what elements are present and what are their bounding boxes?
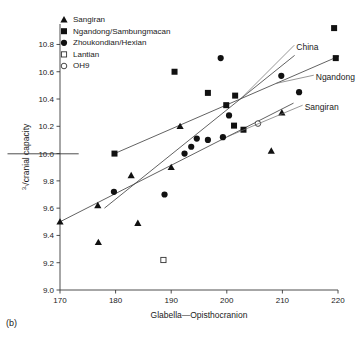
y-tick-label: 10.4 [38,95,54,104]
x-tick-label: 210 [276,296,290,305]
data-point-filled-circle [226,112,232,118]
data-point-filled-circle [181,150,187,156]
data-point-filled-triangle [128,172,135,178]
data-point-filled-circle [188,144,194,150]
legend: SangiranNgandong/SambungmacanZhoukondian… [60,15,170,70]
x-axis-title: Glabella—Opisthocranion [151,310,248,320]
legend-label-3: Lantian [73,50,99,59]
y-tick-label: 9.6 [43,204,55,213]
axis-ticks [57,44,339,293]
y-axis-title-text: 3√cranial capacity [21,123,31,190]
data-point-filled-triangle [134,220,141,226]
legend-marker-open-square [61,52,66,57]
data-point-filled-square [172,69,178,75]
data-point-filled-circle [111,189,117,195]
legend-label-0: Sangiran [73,15,105,24]
x-tick-label: 170 [53,296,67,305]
y-tick-label: 10.6 [38,68,54,77]
data-points [56,25,338,262]
data-point-filled-square [232,93,238,99]
data-point-filled-triangle [94,202,101,208]
legend-marker-open-circle [61,63,67,69]
leader-line-china [241,45,294,98]
legend-marker-filled-square [61,28,67,34]
data-point-filled-square [111,151,117,157]
data-point-filled-square [331,25,337,31]
data-point-filled-circle [296,89,302,95]
y-tick-label: 9.4 [43,231,55,240]
legend-marker-filled-circle [61,40,67,46]
y-tick-label: 10.2 [38,122,54,131]
data-point-filled-circle [220,134,226,140]
data-point-filled-square [205,90,211,96]
data-point-filled-triangle [268,147,275,153]
legend-label-4: OH9 [73,61,90,70]
trend-line-china [104,55,294,208]
data-point-filled-triangle [95,239,102,245]
trend-label-ngandong: Ngandong [316,72,356,82]
data-point-filled-circle [194,135,200,141]
data-point-filled-square [231,123,237,129]
legend-label-2: Zhoukondian/Hexian [73,38,146,47]
y-tick-label: 9.0 [43,286,55,295]
y-tick-label: 10.8 [38,40,54,49]
y-axis-title-radical: √cranial capacity [21,123,31,187]
data-point-filled-circle [278,73,284,79]
x-tick-label: 200 [220,296,234,305]
scatter-plot: 9.09.29.49.69.810.010.210.410.610.817018… [0,0,358,340]
data-point-filled-square [333,55,339,61]
trend-label-china: China [296,42,318,52]
data-point-filled-square [223,102,229,108]
legend-marker-filled-triangle [60,16,67,22]
leader-line-sangiran [228,105,303,136]
data-point-filled-triangle [56,218,63,224]
data-point-filled-circle [161,191,167,197]
data-point-open-square [161,257,166,262]
axes [60,24,338,290]
x-tick-label: 220 [331,296,345,305]
y-tick-label: 9.2 [43,259,55,268]
trend-label-sangiran: Sangiran [305,102,339,112]
axis-tick-labels: 9.09.29.49.69.810.010.210.410.610.817018… [38,40,345,305]
x-tick-label: 190 [165,296,179,305]
figure-panel: 9.09.29.49.69.810.010.210.410.610.817018… [0,0,358,340]
data-point-filled-circle [218,55,224,61]
panel-label: (b) [6,318,17,328]
x-tick-label: 180 [109,296,123,305]
y-tick-label: 9.8 [43,177,55,186]
legend-label-1: Ngandong/Sambungmacan [73,27,170,36]
data-point-filled-circle [205,137,211,143]
